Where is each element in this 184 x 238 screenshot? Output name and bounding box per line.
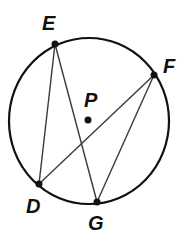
label-p: P xyxy=(84,89,98,111)
point-g xyxy=(94,199,101,206)
circle-diagram: E F D G P xyxy=(0,0,184,238)
point-d xyxy=(36,181,43,188)
segment-ed xyxy=(39,44,55,184)
point-f xyxy=(151,72,158,79)
label-d: D xyxy=(26,195,40,217)
segment-fg xyxy=(97,75,154,202)
point-p xyxy=(85,117,92,124)
label-e: E xyxy=(42,12,56,34)
point-e xyxy=(52,41,59,48)
label-f: F xyxy=(163,55,176,77)
label-g: G xyxy=(88,212,104,234)
segment-eg xyxy=(55,44,97,202)
